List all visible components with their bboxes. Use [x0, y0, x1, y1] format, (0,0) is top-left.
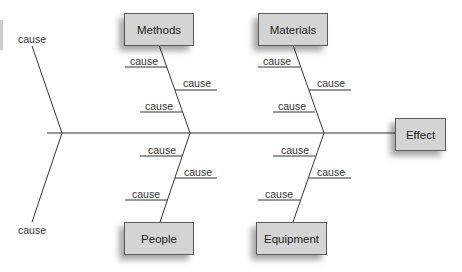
materials-cause-3: cause — [278, 101, 306, 112]
equipment-cause-1: cause — [281, 145, 309, 156]
methods-cause-1: cause — [130, 56, 158, 67]
methods-cause-3: cause — [145, 101, 173, 112]
category-box-people: People — [124, 222, 194, 255]
people-cause-3: cause — [132, 189, 160, 200]
people-cause-1: cause — [148, 145, 176, 156]
tail-cause-top: cause — [18, 34, 46, 45]
materials-cause-1: cause — [263, 56, 291, 67]
category-box-materials: Materials — [258, 13, 328, 46]
fishbone-lines — [0, 0, 462, 272]
effect-box: Effect — [395, 118, 446, 151]
tail-cause-bottom: cause — [18, 225, 46, 236]
materials-cause-2: cause — [317, 78, 345, 89]
equipment-cause-3: cause — [265, 189, 293, 200]
category-box-methods: Methods — [124, 13, 194, 46]
category-box-equipment: Equipment — [256, 222, 327, 255]
equipment-cause-2: cause — [317, 167, 345, 178]
people-cause-2: cause — [184, 167, 212, 178]
methods-cause-2: cause — [183, 78, 211, 89]
